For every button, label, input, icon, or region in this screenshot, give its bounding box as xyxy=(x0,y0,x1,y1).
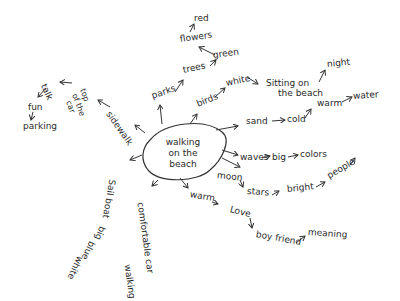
central-topic-line3: beach xyxy=(143,159,223,170)
node-big-waves: big xyxy=(272,153,286,162)
node-water: water xyxy=(353,90,379,101)
node-cold: cold xyxy=(287,115,306,124)
node-waves: waves xyxy=(240,153,268,162)
node-sitting-on: Sitting on xyxy=(266,79,309,88)
mind-map: walking on the beach parks trees flowers… xyxy=(0,0,400,301)
central-topic-line1: walking xyxy=(143,137,223,148)
node-stars: stars xyxy=(247,187,270,198)
node-the-beach: the beach xyxy=(278,89,323,98)
node-sand: sand xyxy=(246,117,268,126)
node-colors: colors xyxy=(300,150,327,159)
node-warm-sand: warm xyxy=(317,99,342,108)
central-topic: walking on the beach xyxy=(143,133,223,181)
node-parking: parking xyxy=(23,122,57,131)
node-red: red xyxy=(194,14,209,23)
node-fun: fun xyxy=(28,103,43,112)
central-topic-line2: on the xyxy=(143,148,223,159)
